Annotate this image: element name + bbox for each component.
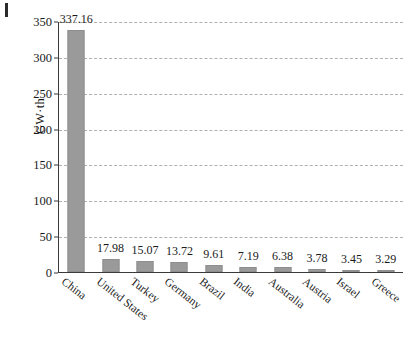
bar-slot: 6.38	[265, 22, 299, 272]
bar-value-label: 9.61	[203, 247, 224, 262]
y-tick-label: 100	[33, 194, 58, 209]
bar-value-label: 3.45	[341, 252, 362, 267]
bar	[136, 261, 153, 272]
bar-value-label: 6.38	[272, 249, 293, 264]
y-tick-label: 0	[46, 266, 58, 281]
bar-slot: 3.78	[300, 22, 334, 272]
bar-slot: 15.07	[128, 22, 162, 272]
bar-slot: 7.19	[231, 22, 265, 272]
bar-value-label: 3.78	[306, 251, 327, 266]
x-tick-label: Israel	[335, 275, 363, 300]
y-tick-label: 150	[33, 158, 58, 173]
x-tick-label: Germany	[163, 275, 204, 311]
bar-slot: 3.45	[334, 22, 368, 272]
bar-slot: 17.98	[93, 22, 127, 272]
bar-value-label: 3.29	[375, 252, 396, 267]
bar	[274, 267, 291, 272]
plot-area: 050100150200250300350 337.1617.9815.0713…	[58, 22, 403, 273]
bar-value-label: 337.16	[60, 12, 93, 27]
bar	[377, 270, 394, 272]
x-tick-label: India	[232, 275, 258, 299]
bar-value-label: 13.72	[166, 244, 193, 259]
bar-series: 337.1617.9815.0713.729.617.196.383.783.4…	[59, 22, 403, 272]
bar	[343, 270, 360, 272]
bar-value-label: 7.19	[238, 249, 259, 264]
bar-value-label: 15.07	[131, 243, 158, 258]
x-tick-label: Greece	[369, 275, 402, 305]
bar-slot: 13.72	[162, 22, 196, 272]
bar	[205, 265, 222, 272]
bar	[68, 30, 85, 272]
y-tick-label: 300	[33, 50, 58, 65]
bar-value-label: 17.98	[97, 241, 124, 256]
y-tick-label: 350	[33, 15, 58, 30]
y-tick-label: 250	[33, 86, 58, 101]
x-axis-tick-labels: ChinaUnited StatesTurkeyGermanyBrazilInd…	[59, 275, 403, 341]
x-tick-label: Australia	[266, 275, 307, 310]
y-tick-label: 50	[40, 230, 59, 245]
y-tick-label: 200	[33, 122, 58, 137]
x-tick-label: Brazil	[197, 275, 227, 302]
bar	[308, 269, 325, 272]
x-tick-label: China	[60, 275, 89, 301]
bar	[102, 259, 119, 272]
x-axis-line	[58, 272, 403, 273]
bar	[240, 267, 257, 272]
bar-slot: 337.16	[59, 22, 93, 272]
bar	[171, 262, 188, 272]
bar-slot: 9.61	[197, 22, 231, 272]
bar-chart-figure: GW·th 050100150200250300350 337.1617.981…	[0, 0, 412, 341]
bar-slot: 3.29	[369, 22, 403, 272]
